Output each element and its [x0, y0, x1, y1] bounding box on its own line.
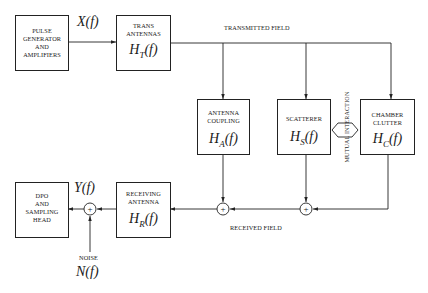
block-label: HEAD	[16, 216, 68, 224]
block-label: PULSE	[16, 27, 68, 35]
block-label: DPO	[16, 192, 68, 200]
block-label: AMPLIFIERS	[16, 51, 68, 59]
block-label: ANTENNAS	[117, 30, 170, 38]
label-received-field: RECEIVED FIELD	[230, 224, 282, 231]
block-pulse-generator: PULSE GENERATOR AND AMPLIFIERS	[15, 15, 69, 71]
transfer-function: HT(f)	[117, 42, 170, 60]
block-label: CLUTTER	[361, 119, 414, 127]
clutter-return-path	[313, 154, 388, 209]
sum-symbol: +	[303, 204, 308, 214]
block-label: AND	[16, 43, 68, 51]
transfer-function: HS(f)	[278, 129, 330, 147]
block-label: RECEIVING	[117, 190, 170, 198]
transfer-function: HC(f)	[361, 131, 414, 149]
block-label: ANTENNA	[117, 198, 170, 206]
signal-x: X(f)	[77, 14, 99, 30]
block-label: COUPLING	[198, 117, 249, 125]
block-label: AND	[16, 200, 68, 208]
block-dpo-sampling-head: DPO AND SAMPLING HEAD	[15, 182, 69, 238]
transfer-function: HA(f)	[198, 131, 249, 149]
block-label: ANTENNA	[198, 109, 249, 117]
transfer-function: HR(f)	[117, 211, 170, 229]
block-chamber-clutter: CHAMBER CLUTTER HC(f)	[360, 99, 415, 155]
label-transmitted-field: TRANSMITTED FIELD	[224, 24, 290, 31]
block-label: SCATTERER	[278, 115, 330, 123]
block-label: TRANS	[117, 22, 170, 30]
signal-y: Y(f)	[74, 180, 95, 196]
block-receiving-antenna: RECEIVING ANTENNA HR(f)	[116, 182, 171, 238]
sum-symbol: +	[87, 204, 92, 214]
block-trans-antennas: TRANS ANTENNAS HT(f)	[116, 15, 171, 71]
label-mutual-interaction: MUTUAL INTERACTION	[344, 91, 350, 163]
block-label: GENERATOR	[16, 35, 68, 43]
block-label: SAMPLING	[16, 208, 68, 216]
label-noise: NOISE	[79, 254, 98, 261]
sum-symbol: +	[220, 204, 225, 214]
signal-n: N(f)	[76, 264, 99, 280]
block-scatterer: SCATTERER HS(f)	[277, 99, 331, 155]
block-label: CHAMBER	[361, 111, 414, 119]
block-antenna-coupling: ANTENNA COUPLING HA(f)	[197, 99, 250, 155]
